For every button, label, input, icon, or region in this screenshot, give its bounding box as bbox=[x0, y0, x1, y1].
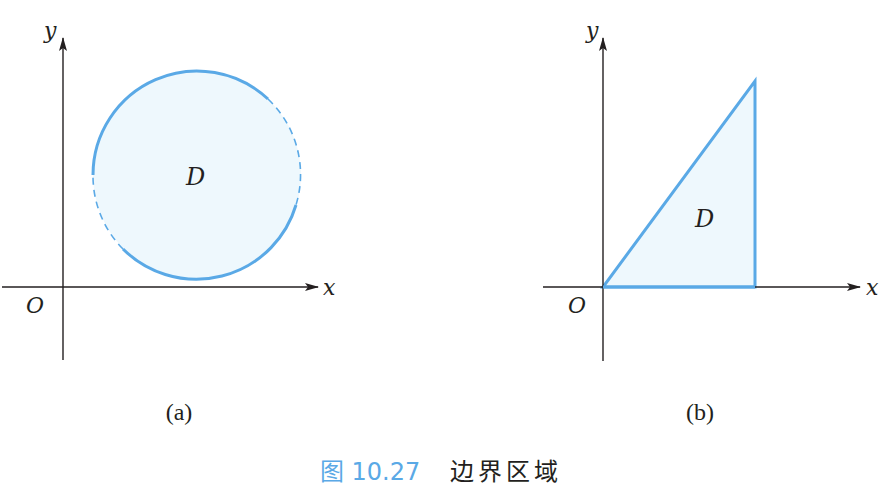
panel-b: x y O D (b) bbox=[543, 18, 879, 425]
figure-caption: 图 10.27边界区域 bbox=[0, 458, 882, 486]
y-axis-label: y bbox=[43, 18, 57, 43]
panel-a: x y O D (a) bbox=[2, 18, 336, 425]
panel-label: (a) bbox=[166, 399, 193, 425]
figure-title: 边界区域 bbox=[450, 458, 562, 486]
region-label: D bbox=[185, 163, 205, 191]
x-axis-label: x bbox=[866, 275, 879, 300]
y-axis-label: y bbox=[585, 18, 599, 43]
x-axis-label: x bbox=[323, 275, 336, 300]
region-label: D bbox=[694, 205, 714, 233]
origin-label: O bbox=[568, 293, 586, 318]
panel-label: (b) bbox=[686, 399, 714, 425]
origin-label: O bbox=[26, 293, 44, 318]
figure-number: 图 10.27 bbox=[320, 458, 420, 486]
region-d-triangle bbox=[603, 81, 755, 287]
